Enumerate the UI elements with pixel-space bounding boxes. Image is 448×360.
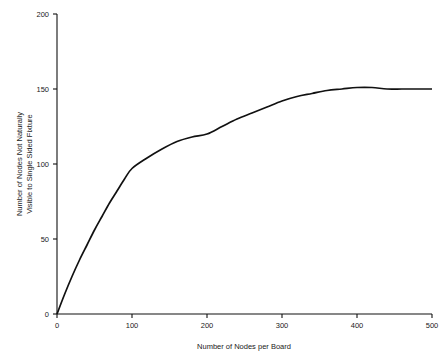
x-tick-label: 300	[276, 321, 289, 330]
chart-container: 050100150200 0100200300400500 Number of …	[0, 0, 448, 360]
y-tick-label: 0	[45, 310, 49, 319]
x-tick-label: 200	[201, 321, 214, 330]
y-tick-label: 100	[36, 160, 49, 169]
y-tick-label: 150	[36, 85, 49, 94]
x-tick-label: 400	[351, 321, 364, 330]
x-axis-title: Number of Nodes per Board	[197, 342, 291, 351]
y-axis-title-line2: Visible to Single Sided Fixture	[25, 114, 34, 214]
y-tick-label: 50	[41, 235, 49, 244]
y-axis-title: Number of Nodes Not Naturally Visible to…	[15, 112, 34, 216]
y-tick-label: 200	[36, 10, 49, 19]
chart-background	[0, 0, 448, 360]
x-tick-label: 0	[55, 321, 59, 330]
x-tick-label: 100	[126, 321, 139, 330]
chart-plot-area: 050100150200 0100200300400500 Number of …	[0, 0, 448, 360]
x-tick-label: 500	[426, 321, 439, 330]
y-axis-title-line1: Number of Nodes Not Naturally	[15, 112, 24, 216]
